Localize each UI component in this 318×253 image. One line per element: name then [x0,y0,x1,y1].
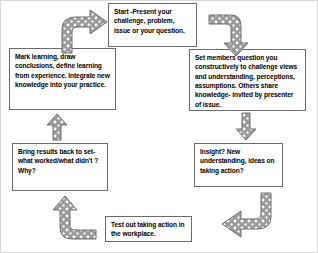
bring-results-box: Bring results back to set- what worked/w… [12,143,108,191]
arrow-bring-results-to-mark-learning [46,113,68,141]
test-out-box: Test out taking action in the workplace. [105,216,192,242]
set-members-box: Set members question you constructively … [189,49,306,111]
mark-learning-box: Mark learning, draw conclusions, define … [9,48,116,110]
arrow-test-out-to-bring-results [44,193,98,241]
diagram-canvas: Start -Present your challenge, problem, … [0,0,318,253]
start-box: Start -Present your challenge, problem, … [108,3,197,47]
insight-box: Insight? New understanding, ideas on tak… [194,143,283,187]
arrow-mark-learning-to-start [52,9,110,53]
arrow-set-members-to-insight [235,113,257,141]
arrow-start-to-set-members [207,13,259,57]
arrow-insight-to-test-out [219,191,273,239]
